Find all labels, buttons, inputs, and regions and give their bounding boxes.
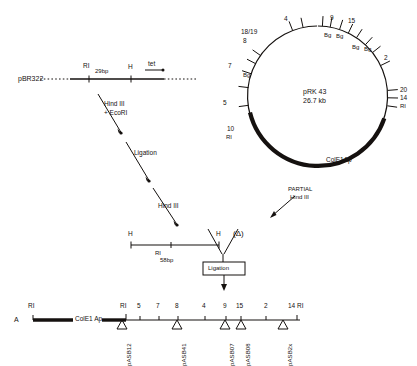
pbr322-line-group — [40, 69, 196, 83]
linear-map-tick-5: 5 — [137, 303, 141, 310]
plasmid-marker-15: 15 — [348, 18, 355, 25]
linear-map-tick-9: 9 — [223, 303, 227, 310]
linear-map-group — [33, 314, 300, 329]
fragment-site-left: H — [128, 231, 133, 238]
linear-map-panel-letter: A — [14, 316, 19, 323]
linear-map-second-site: RI — [120, 303, 127, 310]
plasmid-marker-5: 5 — [223, 100, 227, 107]
plasmid-marker-18-19: 18/19 — [241, 29, 257, 36]
plasmid-marker-9: 9 — [330, 15, 334, 22]
plasmid-site-ri-right: RI — [400, 103, 406, 109]
linear-map-tick-8: 8 — [175, 303, 179, 310]
linear-map-tick-4: 4 — [202, 303, 206, 310]
plasmid-site-ri-left: RI — [226, 134, 232, 140]
plasmid-site-bg-4: Bg — [364, 46, 371, 52]
plasmid-marker-10: 10 — [227, 126, 234, 133]
plasmid-marker-7: 7 — [228, 63, 232, 70]
fragment-delta-label: (Δ) — [233, 230, 244, 238]
insertion-label-pasb07: pASB07 — [229, 343, 235, 366]
plasmid-site-bg-2: Bg — [336, 33, 343, 39]
plasmid-name: pRK 43 — [303, 88, 326, 95]
step-partial-line2: Hind III — [290, 194, 309, 200]
plasmid-marker-14: 14 — [400, 95, 407, 102]
plasmid-marker-2: 2 — [384, 55, 388, 62]
step-ligation-2: Ligation — [208, 265, 229, 271]
plasmid-marker-8: 8 — [243, 38, 247, 45]
insertion-label-pasb08: pASB08 — [245, 343, 251, 366]
step-digest-line1: Hind III — [104, 101, 125, 108]
linear-map-region-label: ColE1 Ap — [75, 316, 102, 323]
pbr322-span-label: 29bp — [95, 68, 108, 74]
fragment-line-group — [131, 242, 219, 249]
pbr322-site-ri: RI — [83, 63, 90, 70]
linear-map-tick-15: 15 — [236, 303, 243, 310]
linear-map-left-site: RI — [28, 303, 35, 310]
plasmid-marker-20: 20 — [400, 87, 407, 94]
step-ligation-1: Ligation — [134, 150, 157, 157]
plasmid-site-bg-5: Bg — [243, 72, 250, 78]
ligation-converge — [203, 229, 245, 291]
pbr322-label: pBR322 — [18, 75, 43, 82]
step-hind3: Hind III — [158, 203, 179, 210]
plasmid-marker-4: 4 — [284, 16, 288, 23]
insertion-label-pasb12: pASB12 — [126, 343, 132, 366]
step-partial-line1: PARTIAL — [288, 186, 312, 192]
insertion-label-pasb2x: pASB2x — [287, 344, 293, 366]
linear-map-right-site: 14 RI — [288, 303, 304, 310]
pbr322-site-tet: tet — [148, 61, 155, 68]
fragment-site-inner: RI — [155, 250, 161, 256]
step-digest-line2: + EcoRI — [104, 110, 127, 117]
pbr322-site-h: H — [128, 64, 133, 71]
plasmid-size: 26.7 kb — [303, 97, 326, 104]
linear-map-tick-2: 2 — [264, 303, 268, 310]
fragment-size: 58bp — [160, 257, 173, 263]
insertion-label-pasb41: pASB41 — [181, 343, 187, 366]
plasmid-site-bg-1: Bg — [324, 32, 331, 38]
plasmid-site-bg-3: Bg — [352, 44, 359, 50]
fragment-site-right: H — [216, 231, 221, 238]
plasmid-region-label: ColE1Ap — [326, 157, 352, 164]
linear-map-tick-7: 7 — [156, 303, 160, 310]
